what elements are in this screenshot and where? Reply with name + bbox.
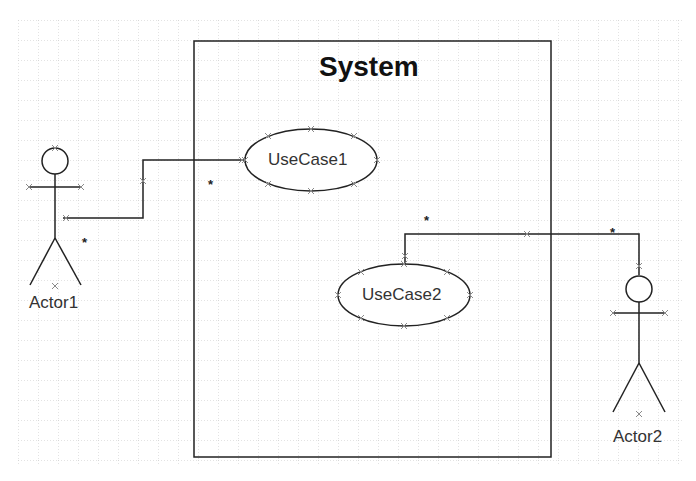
system-title: System — [319, 51, 419, 83]
actor1-label: Actor1 — [29, 293, 78, 313]
multiplicity-usecase2-end: * — [424, 213, 429, 228]
multiplicity-actor2-end: * — [610, 225, 615, 240]
usecase1-label: UseCase1 — [268, 150, 347, 170]
grid-background — [18, 20, 682, 465]
multiplicity-actor1-end: * — [82, 235, 87, 250]
actor2-label: Actor2 — [613, 427, 662, 447]
multiplicity-usecase1-end: * — [208, 177, 213, 192]
usecase2-label: UseCase2 — [362, 285, 441, 305]
